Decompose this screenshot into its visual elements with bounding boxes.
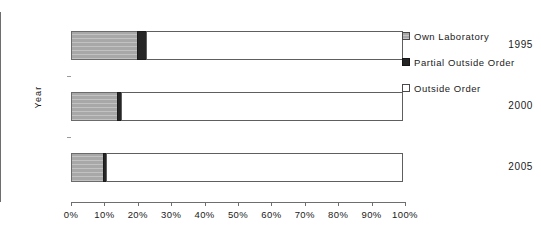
chart-legend: Own Laboratory Partial Outside Order Out…	[402, 30, 537, 108]
x-axis-tick-mark	[138, 202, 139, 206]
x-axis-tick-mark	[305, 202, 306, 206]
own-laboratory-swatch	[402, 32, 410, 40]
legend-item-outside-order: Outside Order	[402, 82, 537, 94]
bar-row-1995	[71, 31, 405, 60]
segment-own-laboratory	[71, 153, 104, 182]
x-axis-tick-label: 40%	[194, 209, 214, 220]
x-axis-tick-mark	[338, 202, 339, 206]
x-axis-tick-mark	[271, 202, 272, 206]
x-axis-tick-label: 10%	[94, 209, 114, 220]
x-axis-tick-mark	[405, 202, 406, 206]
segment-outside-order	[121, 92, 403, 121]
x-axis-tick-mark	[171, 202, 172, 206]
x-axis-tick-label: 50%	[228, 209, 248, 220]
legend-label: Own Laboratory	[414, 31, 489, 42]
legend-item-own-laboratory: Own Laboratory	[402, 30, 537, 42]
outside-order-swatch	[402, 84, 410, 92]
partial-outside-order-swatch	[402, 58, 410, 66]
segment-own-laboratory	[71, 31, 138, 60]
legend-label: Outside Order	[414, 83, 481, 94]
y-axis-tick	[67, 137, 71, 138]
legend-item-partial-outside-order: Partial Outside Order	[402, 56, 537, 68]
x-axis-tick-mark	[205, 202, 206, 206]
segment-outside-order	[146, 31, 403, 60]
y-axis-line	[0, 12, 1, 202]
segment-outside-order	[106, 153, 403, 182]
x-axis-tick-label: 60%	[261, 209, 281, 220]
y-axis-category-label-2005: 2005	[473, 161, 533, 172]
x-axis-tick-label: 20%	[128, 209, 148, 220]
y-axis-tick	[67, 76, 71, 77]
x-axis-tick-label: 30%	[161, 209, 181, 220]
x-axis-tick-mark	[372, 202, 373, 206]
x-axis-tick-label: 100%	[392, 209, 418, 220]
x-axis-tick-mark	[104, 202, 105, 206]
segment-own-laboratory	[71, 92, 118, 121]
x-axis-tick-label: 90%	[361, 209, 381, 220]
stacked-bar-chart: Year 1995 2000 2005 0%10%20%30%40%50%60%…	[0, 0, 541, 235]
x-axis-tick-mark	[238, 202, 239, 206]
y-axis-title: Year	[33, 67, 43, 127]
x-axis-tick-label: 70%	[295, 209, 315, 220]
bar-row-2000	[71, 92, 405, 121]
legend-label: Partial Outside Order	[414, 57, 515, 68]
x-axis-tick-label: 0%	[64, 209, 79, 220]
bar-row-2005	[71, 153, 405, 182]
x-axis-tick-label: 80%	[328, 209, 348, 220]
x-axis-tick-mark	[71, 202, 72, 206]
